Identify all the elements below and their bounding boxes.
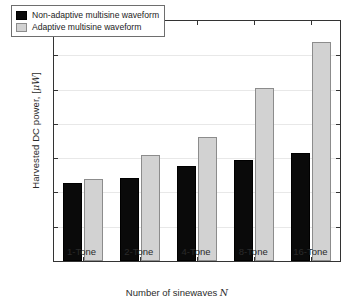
x-axis-tick-label: 4-Tone xyxy=(181,246,210,257)
x-axis-tick xyxy=(254,21,255,25)
y-axis-tick xyxy=(336,55,340,56)
legend-item-label: Non-adaptive multisine waveform xyxy=(32,10,159,20)
y-axis-tick xyxy=(54,90,58,91)
gray-swatch xyxy=(16,23,27,32)
bar xyxy=(255,88,274,261)
y-axis-tick xyxy=(54,124,58,125)
bar-chart-figure: Harvested DC power, [μW] 00.511.522.533.… xyxy=(0,0,354,307)
bar xyxy=(291,153,310,261)
gridline xyxy=(54,90,340,91)
legend: Non-adaptive multisine waveform Adaptive… xyxy=(11,5,165,37)
x-axis-title: Number of sinewaves N xyxy=(0,287,354,298)
y-axis-title-pre: Harvested DC power, [ xyxy=(30,91,41,189)
y-axis-tick xyxy=(54,55,58,56)
gridline xyxy=(54,124,340,125)
x-axis-tick-label: 8-Tone xyxy=(239,246,268,257)
x-axis-tick-label: 1-Tone xyxy=(67,246,96,257)
y-axis-tick xyxy=(54,192,58,193)
x-axis-tick-label: 2-Tone xyxy=(124,246,153,257)
bar xyxy=(312,42,331,261)
x-axis-tick-label: 16-Tone xyxy=(293,246,327,257)
y-axis-tick xyxy=(336,227,340,228)
y-axis-title-unit: μW xyxy=(30,75,41,91)
x-axis-tick xyxy=(197,21,198,25)
y-axis-tick xyxy=(336,192,340,193)
plot-area: 00.511.522.533.5 xyxy=(53,20,341,262)
y-axis-tick xyxy=(336,158,340,159)
black-swatch xyxy=(16,11,27,20)
legend-item: Non-adaptive multisine waveform xyxy=(16,9,159,21)
legend-item: Adaptive multisine waveform xyxy=(16,21,159,33)
legend-item-label: Adaptive multisine waveform xyxy=(32,22,141,32)
y-axis-title: Harvested DC power, [μW] xyxy=(30,11,41,251)
y-axis-tick xyxy=(54,227,58,228)
y-axis-title-post: ] xyxy=(30,72,41,75)
x-axis-title-pre: Number of sinewaves xyxy=(126,287,220,298)
y-axis-tick xyxy=(336,90,340,91)
gridline xyxy=(54,55,340,56)
y-axis-tick xyxy=(336,124,340,125)
x-axis-title-variable: N xyxy=(220,287,228,298)
bar xyxy=(198,137,217,261)
y-axis-tick xyxy=(54,158,58,159)
x-axis-tick xyxy=(311,21,312,25)
